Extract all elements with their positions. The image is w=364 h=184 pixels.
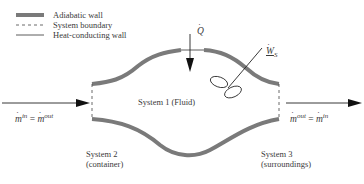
system2-desc: (container) [86, 159, 123, 169]
heat-symbol: Q [197, 26, 204, 36]
inlet-arrow-icon [2, 99, 90, 107]
shaft-work-label: WS [266, 46, 277, 60]
heat-arrow-icon [186, 34, 194, 72]
system3-name: System 3 [261, 149, 311, 159]
top-wall-left [92, 50, 181, 84]
system1-label: System 1 (Fluid) [138, 97, 195, 107]
inlet-mass-flow-equation: min = mout [15, 111, 53, 124]
system3-label: System 3 (surroundings) [261, 149, 311, 169]
legend-label-conducting: Heat-conducting wall [53, 30, 126, 40]
work-subscript: S [274, 51, 278, 59]
heat-rate-label: Q [197, 26, 204, 36]
system3-desc: (surroundings) [261, 159, 311, 169]
legend-label-boundary: System boundary [53, 20, 112, 30]
outlet-arrow-icon [286, 99, 362, 107]
legend-label-adiabatic: Adiabatic wall [53, 10, 103, 20]
system2-name: System 2 [86, 149, 123, 159]
legend [16, 15, 44, 35]
work-symbol: W [266, 46, 274, 56]
system2-label: System 2 (container) [86, 149, 123, 169]
outlet-mass-flow-equation: mout = min [290, 111, 328, 124]
